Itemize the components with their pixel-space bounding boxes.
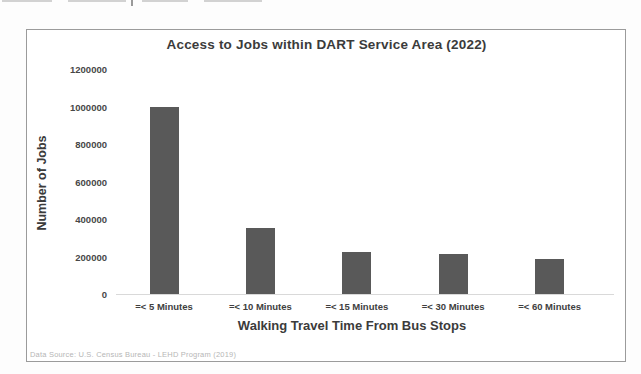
y-axis-tick-label: 1200000 <box>35 64 107 75</box>
y-axis-tick-label: 200000 <box>35 252 107 263</box>
bar-5-minutes <box>150 107 179 295</box>
x-axis-category-label: =< 60 Minutes <box>504 301 596 312</box>
y-axis-tick-label: 1000000 <box>35 102 107 113</box>
y-axis-tick-label: 400000 <box>35 214 107 225</box>
x-axis-category-label: =< 5 Minutes <box>118 301 210 312</box>
x-axis-category-label: =< 10 Minutes <box>214 301 306 312</box>
x-axis-category-label: =< 30 Minutes <box>407 301 499 312</box>
plot-area: 020000040000060000080000010000001200000=… <box>0 0 641 374</box>
y-axis-tick-label: 800000 <box>35 139 107 150</box>
bar-10-minutes <box>246 228 275 294</box>
x-axis-category-label: =< 15 Minutes <box>311 301 403 312</box>
bar-60-minutes <box>535 259 564 294</box>
scanned-page: { "chart_data": { "type": "bar", "title"… <box>0 0 641 374</box>
bar-30-minutes <box>439 254 468 294</box>
bar-15-minutes <box>342 252 371 294</box>
y-axis-tick-label: 600000 <box>35 177 107 188</box>
y-axis-tick-label: 0 <box>35 289 107 300</box>
